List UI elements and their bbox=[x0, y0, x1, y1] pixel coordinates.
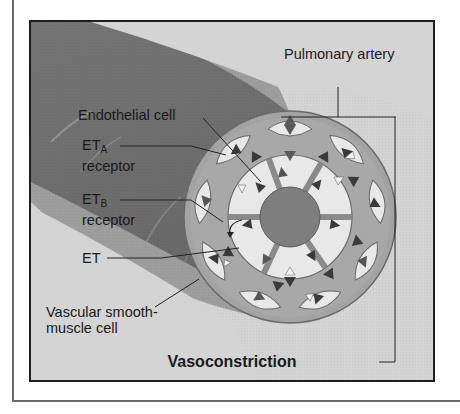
vessel-lumen bbox=[260, 187, 320, 247]
vasoconstriction-figure: Pulmonary artery Endothelial cell ETA re… bbox=[29, 20, 435, 382]
label-eta-main: ET bbox=[82, 137, 101, 153]
label-endothelial-cell: Endothelial cell bbox=[78, 107, 176, 123]
outer-frame-bottom-border bbox=[12, 400, 460, 402]
figure-title: Vasoconstriction bbox=[31, 353, 433, 371]
label-etb-sub: B bbox=[101, 198, 108, 209]
label-etb-suffix: receptor bbox=[82, 212, 135, 228]
label-eta-receptor: ETA receptor bbox=[82, 137, 135, 174]
outer-frame-left-border bbox=[12, 0, 14, 401]
label-et: ET bbox=[82, 250, 101, 266]
label-eta-sub: A bbox=[101, 144, 108, 155]
label-smooth-muscle-line1: Vascular smooth- bbox=[46, 304, 158, 320]
label-smooth-muscle-line2: muscle cell bbox=[46, 320, 118, 336]
label-vascular-smooth-muscle-cell: Vascular smooth- muscle cell bbox=[46, 304, 158, 336]
label-etb-receptor: ETB receptor bbox=[82, 191, 135, 228]
label-eta-suffix: receptor bbox=[82, 158, 135, 174]
label-pulmonary-artery: Pulmonary artery bbox=[284, 46, 394, 62]
label-etb-main: ET bbox=[82, 191, 101, 207]
